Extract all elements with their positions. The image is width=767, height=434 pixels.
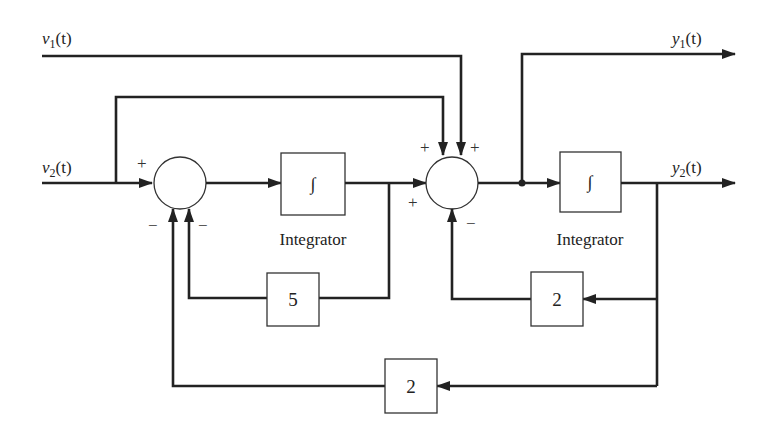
- integrator-2-caption: Integrator: [556, 230, 623, 249]
- sum2-sign-bottom: −: [466, 214, 476, 233]
- sum2-sign-top-left: +: [420, 138, 430, 157]
- v1-signal-path: [42, 56, 461, 155]
- y2-label: y2(t): [670, 158, 702, 180]
- gain-2-inner-value: 2: [552, 289, 562, 310]
- summing-junction-1: [154, 157, 206, 209]
- sum2-sign-left: +: [408, 193, 418, 212]
- y1-output-path: [522, 54, 735, 183]
- v2-label: v2(t): [42, 158, 72, 180]
- v2-signal-path: [42, 97, 443, 183]
- v1-label: v1(t): [42, 29, 72, 51]
- sum2-sign-top-right: +: [470, 138, 480, 157]
- block-diagram: v1(t) v2(t) + − − ∫ Integrator 5 + + + −…: [0, 0, 767, 434]
- sum1-sign-left: +: [137, 154, 147, 173]
- y1-label: y1(t): [670, 29, 702, 51]
- summing-junction-2: [426, 157, 478, 209]
- gain-5-value: 5: [288, 289, 298, 310]
- sum1-sign-bottom-right: −: [198, 216, 208, 235]
- gain-2-outer-value: 2: [406, 376, 416, 397]
- integrator-1-caption: Integrator: [279, 230, 346, 249]
- sum1-sign-bottom-left: −: [148, 216, 158, 235]
